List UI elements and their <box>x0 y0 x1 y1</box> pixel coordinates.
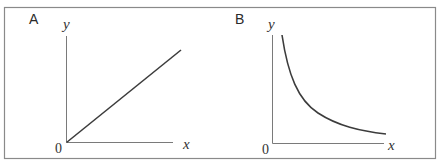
panel-a-x-axis-label: x <box>182 136 190 152</box>
figure: A y 0 x B y 0 x <box>0 0 439 164</box>
panel-a-y-axis-label: y <box>61 16 70 32</box>
panel-b-x-axis-label: x <box>387 137 395 153</box>
panel-a-origin-label: 0 <box>55 141 62 156</box>
panel-a-linear-line <box>67 50 182 143</box>
panel-b-label: B <box>235 11 244 27</box>
panel-b: B y 0 x <box>235 11 395 157</box>
panel-b-origin-label: 0 <box>262 142 269 157</box>
panel-b-inverse-curve <box>282 35 386 134</box>
panel-a-label: A <box>29 11 39 27</box>
panel-a: A y 0 x <box>29 11 190 156</box>
panel-b-y-axis-label: y <box>266 16 275 32</box>
